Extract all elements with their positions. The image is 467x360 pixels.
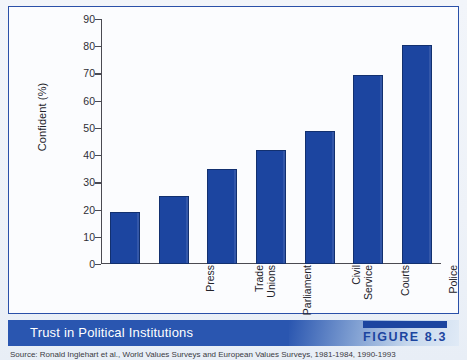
y-axis-tick-label: 90 (69, 14, 95, 25)
figure-caption-bar: Trust in Political Institutions FIGURE 8… (8, 320, 459, 346)
figure-root: Confident (%) 0102030405060708090 PressT… (0, 0, 467, 360)
bar-series (101, 19, 441, 264)
bar (353, 75, 383, 264)
y-axis-tick-label: 30 (69, 177, 95, 188)
y-axis-tick-label: 70 (69, 68, 95, 79)
bar (256, 150, 286, 264)
bar (402, 45, 432, 264)
chart-panel: Confident (%) 0102030405060708090 PressT… (8, 6, 459, 314)
bar (110, 212, 140, 264)
plot-area: Confident (%) 0102030405060708090 PressT… (9, 7, 458, 313)
y-axis-tick-label: 50 (69, 123, 95, 134)
figure-badge-label: FIGURE 8.3 (363, 330, 447, 344)
y-axis-tick-label: 60 (69, 96, 95, 107)
y-axis-tick-label: 20 (69, 205, 95, 216)
y-axis-tick-label: 80 (69, 41, 95, 52)
figure-source-note: Source: Ronald Inglehart et al., World V… (10, 350, 460, 360)
y-axis-tick-label: 40 (69, 150, 95, 161)
y-axis-tick-label: 0 (69, 259, 95, 270)
bar (159, 196, 189, 264)
bar (207, 169, 237, 264)
y-axis-title: Confident (%) (36, 57, 48, 177)
figure-badge-rule (363, 321, 447, 328)
figure-caption-text: Trust in Political Institutions (30, 325, 193, 340)
x-axis-tick-labels: PressTrade UnionsParliamentCivil Service… (101, 265, 441, 321)
y-axis-tick-label: 10 (69, 232, 95, 243)
bar (305, 131, 335, 264)
